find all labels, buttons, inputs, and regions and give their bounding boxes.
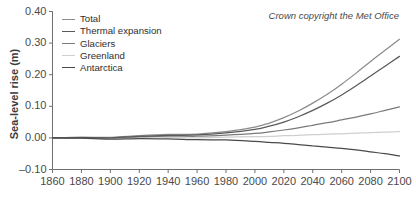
copyright-annotation: Crown copyright the Met Office (269, 10, 399, 21)
y-tick-label: 0.20 (0, 69, 47, 80)
legend-swatch-greenland (62, 55, 75, 56)
y-tick-label: –0.10 (0, 164, 47, 175)
legend: Total Thermal expansion Glaciers Greenla… (60, 12, 164, 75)
y-tick-label: 0.30 (0, 37, 47, 48)
legend-swatch-antarctica (62, 67, 75, 68)
y-tick-label: 0.00 (0, 132, 47, 143)
legend-item-glaciers: Glaciers (62, 37, 162, 49)
legend-label-greenland: Greenland (80, 51, 125, 61)
legend-label-glaciers: Glaciers (80, 39, 115, 49)
legend-swatch-glaciers (62, 43, 75, 44)
legend-label-thermal-expansion: Thermal expansion (80, 26, 162, 36)
y-tick-label: 0.40 (0, 6, 47, 17)
y-tick-label: 0.10 (0, 100, 47, 111)
x-tick-label: 2100 (378, 176, 416, 187)
legend-label-total: Total (80, 14, 100, 24)
legend-item-antarctica: Antarctica (62, 62, 162, 74)
legend-swatch-total (62, 19, 75, 20)
legend-item-total: Total (62, 13, 162, 25)
legend-item-thermal-expansion: Thermal expansion (62, 25, 162, 37)
series-line-antarctica (53, 138, 400, 156)
legend-swatch-thermal-expansion (62, 31, 75, 32)
legend-label-antarctica: Antarctica (80, 63, 123, 73)
legend-item-greenland: Greenland (62, 50, 162, 62)
